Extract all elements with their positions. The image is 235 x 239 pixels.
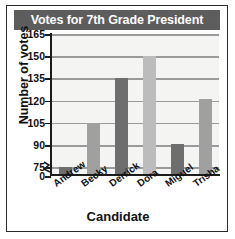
y-tick (45, 101, 51, 103)
y-tick-label: 75 (19, 162, 45, 173)
y-tick (45, 123, 51, 125)
y-tick (45, 34, 51, 36)
axis-break-icon (43, 160, 55, 174)
bar-slot (79, 34, 107, 174)
y-axis-line (50, 33, 52, 175)
bar-slot (191, 34, 219, 174)
bar-slot (51, 34, 79, 174)
y-tick (45, 78, 51, 80)
plot-area (51, 34, 219, 174)
bar-slot (163, 34, 191, 174)
y-axis-title: Number of votes (17, 20, 31, 130)
bar-series (51, 34, 219, 174)
y-tick-label: 90 (19, 140, 45, 151)
chart-title: Votes for 7th Grade President (31, 13, 204, 27)
y-tick (45, 145, 51, 147)
y-tick (45, 56, 51, 58)
bar-slot (107, 34, 135, 174)
x-axis-title: Candidate (7, 209, 229, 224)
bar-slot (135, 34, 163, 174)
chart-figure: Votes for 7th Grade President 0759010512… (6, 5, 228, 232)
